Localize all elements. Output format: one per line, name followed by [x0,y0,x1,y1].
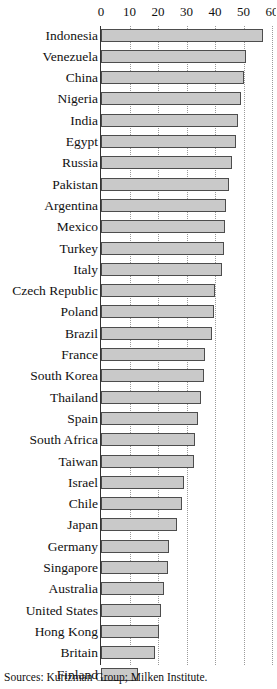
bar-britain [101,646,155,659]
bar-brazil [101,327,212,340]
bar-row [101,580,272,601]
bar-row [101,559,272,580]
bar-row [101,26,272,47]
x-axis-tick-40: 40 [209,5,222,18]
category-label-poland: Poland [0,305,98,319]
bar-israel [101,476,184,489]
bar-hong-kong [101,625,159,638]
bar-germany [101,540,169,553]
x-axis-tick-50: 50 [237,5,250,18]
category-label-britain: Britain [0,646,98,660]
bar-spain [101,412,198,425]
category-axis-labels: IndonesiaVenezuelaChinaNigeriaIndiaEgypt… [0,26,98,665]
category-label-mexico: Mexico [0,220,98,234]
bar-italy [101,263,222,276]
category-label-japan: Japan [0,518,98,532]
bar-row [101,111,272,132]
bar-row [101,218,272,239]
bar-poland [101,305,214,318]
bar-china [101,71,244,84]
bar-row [101,133,272,154]
bar-argentina [101,199,226,212]
bar-france [101,348,205,361]
bar-row [101,516,272,537]
bar-chile [101,497,182,510]
bar-singapore [101,561,168,574]
bar-row [101,367,272,388]
source-note: Sources: Kurtzman Group; Milken Institut… [4,671,207,683]
bar-row [101,473,272,494]
bar-mexico [101,220,225,233]
bar-row [101,260,272,281]
x-axis-tick-0: 0 [98,5,105,18]
bar-nigeria [101,92,241,105]
bar-row [101,90,272,111]
category-label-israel: Israel [0,476,98,490]
bar-row [101,154,272,175]
category-label-czech-republic: Czech Republic [0,284,98,298]
bar-row [101,644,272,665]
bar-south-korea [101,369,204,382]
opacity-index-bar-chart: 0102030405060 IndonesiaVenezuelaChinaNig… [0,0,276,689]
plot-area [101,26,272,665]
bar-venezuela [101,50,246,63]
bar-row [101,495,272,516]
bar-rows [101,26,272,665]
category-label-india: India [0,114,98,128]
bar-row [101,175,272,196]
category-label-turkey: Turkey [0,242,98,256]
category-label-france: France [0,348,98,362]
bar-row [101,69,272,90]
bar-row [101,239,272,260]
bar-pakistan [101,178,229,191]
category-label-australia: Australia [0,582,98,596]
gridline [272,26,274,665]
bar-row [101,388,272,409]
x-axis-tick-60: 60 [266,5,277,18]
category-label-argentina: Argentina [0,199,98,213]
category-label-nigeria: Nigeria [0,92,98,106]
bar-row [101,431,272,452]
category-label-hong-kong: Hong Kong [0,625,98,639]
category-label-taiwan: Taiwan [0,455,98,469]
bar-russia [101,156,232,169]
category-label-indonesia: Indonesia [0,29,98,43]
bar-row [101,303,272,324]
category-label-egypt: Egypt [0,135,98,149]
bar-row [101,452,272,473]
category-label-thailand: Thailand [0,391,98,405]
bar-row [101,47,272,68]
category-label-singapore: Singapore [0,561,98,575]
bar-row [101,601,272,622]
category-label-pakistan: Pakistan [0,178,98,192]
category-label-russia: Russia [0,156,98,170]
category-label-china: China [0,71,98,85]
x-axis-tick-30: 30 [180,5,193,18]
bar-south-africa [101,433,195,446]
x-axis-tick-labels: 0102030405060 [0,0,276,24]
bar-row [101,537,272,558]
bar-turkey [101,242,224,255]
bar-czech-republic [101,284,215,297]
bar-india [101,114,238,127]
bar-row [101,409,272,430]
bar-indonesia [101,29,263,42]
category-label-italy: Italy [0,263,98,277]
bar-row [101,282,272,303]
bar-united-states [101,604,161,617]
x-axis-tick-20: 20 [152,5,165,18]
category-label-spain: Spain [0,412,98,426]
category-label-brazil: Brazil [0,327,98,341]
bar-row [101,346,272,367]
category-label-south-korea: South Korea [0,369,98,383]
bar-taiwan [101,455,194,468]
bar-thailand [101,391,201,404]
bar-australia [101,582,164,595]
category-label-venezuela: Venezuela [0,50,98,64]
x-axis-tick-10: 10 [123,5,136,18]
bar-row [101,324,272,345]
category-label-chile: Chile [0,497,98,511]
category-label-south-africa: South Africa [0,433,98,447]
category-label-united-states: United States [0,604,98,618]
category-label-germany: Germany [0,540,98,554]
